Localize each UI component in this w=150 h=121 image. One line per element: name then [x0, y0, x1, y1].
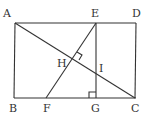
label-C: C [131, 102, 139, 115]
label-I: I [99, 62, 103, 75]
geometry-diagram: A E D H I B F G C [0, 0, 150, 121]
segment-EF [46, 23, 96, 98]
segment-AC [15, 23, 135, 98]
segment-AB [14, 23, 15, 98]
right-angle-mark-H [77, 52, 82, 60]
label-G: G [91, 102, 100, 115]
segment-DC [135, 23, 136, 98]
label-H: H [57, 57, 67, 70]
right-angle-mark-G [89, 92, 96, 98]
label-F: F [43, 102, 51, 115]
label-D: D [132, 7, 141, 20]
label-B: B [9, 102, 17, 115]
label-A: A [2, 7, 12, 20]
label-E: E [91, 7, 99, 20]
